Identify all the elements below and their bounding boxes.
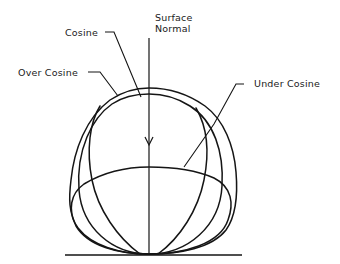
surface-normal-label-line1: Surface — [155, 12, 193, 23]
over-cosine-leader-line — [88, 72, 118, 96]
under-cosine-curve — [71, 167, 231, 254]
inner-lobe-curve-right — [158, 108, 207, 254]
diagram-svg — [0, 0, 340, 264]
cosine-leader-line — [105, 32, 141, 97]
under-cosine-leader-line — [184, 84, 244, 167]
over-cosine-label: Over Cosine — [18, 67, 78, 78]
surface-normal-label-line2: Normal — [155, 23, 191, 34]
cosine-label: Cosine — [65, 27, 98, 38]
under-cosine-label: Under Cosine — [254, 78, 320, 89]
